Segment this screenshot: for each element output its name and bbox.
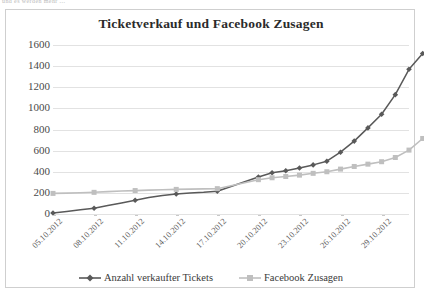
x-axis-tick-mark bbox=[53, 215, 56, 216]
data-point-marker bbox=[132, 197, 138, 203]
x-axis-tick-label: 14.10.2012 bbox=[149, 216, 187, 254]
chart-title: Ticketverkauf und Facebook Zusagen bbox=[6, 16, 416, 32]
data-point-marker bbox=[91, 205, 97, 211]
x-axis-tick-mark bbox=[299, 215, 302, 216]
x-axis-tick-mark bbox=[341, 215, 344, 216]
data-point-marker bbox=[393, 155, 398, 160]
data-point-marker bbox=[310, 162, 316, 168]
legend-item-1[interactable]: Anzahl verkaufter Tickets bbox=[79, 272, 213, 283]
x-axis-tick-label: 08.10.2012 bbox=[67, 216, 105, 254]
legend-item-label: Anzahl verkaufter Tickets bbox=[104, 272, 213, 283]
data-point-marker bbox=[324, 169, 329, 174]
data-point-marker bbox=[215, 186, 220, 191]
x-axis-tick-label: 26.10.2012 bbox=[313, 216, 351, 254]
chart-legend: Anzahl verkaufter TicketsFacebook Zusage… bbox=[6, 272, 416, 283]
series-lines bbox=[53, 45, 409, 214]
x-axis-tick-mark bbox=[382, 215, 385, 216]
y-axis-tick-label: 800 bbox=[8, 124, 50, 135]
data-point-marker bbox=[297, 173, 302, 178]
chart-frame: Ticketverkauf und Facebook Zusagen 16001… bbox=[5, 9, 415, 288]
y-axis-tick-label: 200 bbox=[8, 187, 50, 198]
x-axis-tick-label: 29.10.2012 bbox=[354, 216, 392, 254]
x-axis-tick-mark bbox=[176, 215, 179, 216]
data-point-marker bbox=[365, 162, 370, 167]
series-line-1 bbox=[53, 54, 423, 213]
x-axis-tick-label: 17.10.2012 bbox=[190, 216, 228, 254]
x-axis-tick-label: 11.10.2012 bbox=[108, 216, 146, 254]
data-point-marker bbox=[173, 191, 179, 197]
data-point-marker bbox=[338, 167, 343, 172]
y-axis-tick-label: 600 bbox=[8, 145, 50, 156]
data-point-marker bbox=[270, 175, 275, 180]
top-text-fragment-line: und es werden mehr ... bbox=[2, 0, 65, 4]
data-point-marker bbox=[283, 174, 288, 179]
y-axis-tick-label: 0 bbox=[8, 208, 50, 219]
y-axis-tick-label: 1200 bbox=[8, 81, 50, 92]
y-axis: 16001400120010008006004002000 bbox=[6, 45, 50, 214]
data-point-marker bbox=[297, 165, 303, 171]
legend-square-marker-icon bbox=[239, 273, 261, 283]
legend-item-label: Facebook Zusagen bbox=[264, 272, 343, 283]
x-axis-tick-mark bbox=[258, 215, 261, 216]
x-axis-tick-label: 20.10.2012 bbox=[231, 216, 269, 254]
x-axis-tick-label: 23.10.2012 bbox=[272, 216, 310, 254]
x-axis-tick-mark bbox=[217, 215, 220, 216]
data-point-marker bbox=[269, 170, 275, 176]
y-axis-tick-label: 1400 bbox=[8, 60, 50, 71]
x-axis-tick-mark bbox=[135, 215, 138, 216]
data-point-marker bbox=[51, 191, 56, 196]
x-axis-tick-mark bbox=[94, 215, 97, 216]
y-axis-tick-label: 400 bbox=[8, 166, 50, 177]
data-point-marker bbox=[283, 168, 289, 174]
data-point-marker bbox=[133, 188, 138, 193]
x-axis-tick-label: 05.10.2012 bbox=[26, 216, 64, 254]
data-point-marker bbox=[420, 136, 424, 141]
plot-area bbox=[53, 45, 409, 214]
data-point-marker bbox=[379, 159, 384, 164]
data-point-marker bbox=[311, 171, 316, 176]
page-top-text-fragment: und es werden mehr ... bbox=[0, 0, 424, 9]
data-point-marker bbox=[407, 148, 412, 153]
y-axis-tick-label: 1000 bbox=[8, 102, 50, 113]
data-point-marker bbox=[174, 187, 179, 192]
data-point-marker bbox=[256, 177, 261, 182]
gridline bbox=[53, 214, 409, 215]
data-point-marker bbox=[352, 164, 357, 169]
x-axis-labels: 05.10.201208.10.201211.10.201214.10.2012… bbox=[53, 216, 409, 274]
y-axis-tick-label: 1600 bbox=[8, 39, 50, 50]
legend-diamond-marker-icon bbox=[79, 273, 101, 283]
data-point-marker bbox=[92, 190, 97, 195]
legend-item-2[interactable]: Facebook Zusagen bbox=[239, 272, 343, 283]
